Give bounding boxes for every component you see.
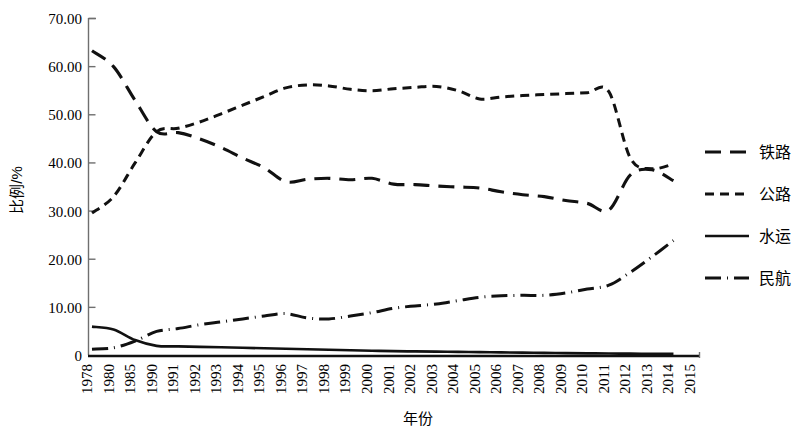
x-tick-label: 1990 — [144, 364, 160, 394]
legend-label-铁路: 铁路 — [759, 144, 791, 161]
x-tick-label: 2009 — [553, 364, 569, 394]
x-tick-label: 2015 — [682, 364, 698, 394]
x-tick-label: 2003 — [424, 364, 440, 394]
y-axis-tick-marks — [89, 19, 96, 308]
x-axis-title: 年份 — [403, 410, 433, 427]
series-line-水运 — [92, 327, 673, 354]
x-tick-label: 2005 — [467, 364, 483, 394]
x-tick-label: 1999 — [337, 364, 353, 394]
x-tick-label: 1991 — [165, 364, 181, 394]
y-tick-label: 60.00 — [48, 59, 82, 75]
x-tick-label: 1995 — [251, 364, 267, 394]
series-line-民航 — [92, 240, 673, 349]
transport-share-chart: 010.0020.0030.0040.0050.0060.0070.00 比例/… — [0, 0, 793, 433]
x-tick-label: 1994 — [230, 364, 246, 395]
y-tick-label: 50.00 — [48, 107, 82, 123]
x-tick-label: 2001 — [381, 364, 397, 394]
x-tick-label: 1992 — [187, 364, 203, 394]
x-tick-label: 2014 — [660, 364, 676, 395]
x-tick-label: 2013 — [639, 364, 655, 394]
series-group — [92, 51, 673, 354]
x-axis-tick-labels: 1978198019851990199119921993199419951996… — [79, 364, 698, 395]
x-tick-label: 2004 — [445, 364, 461, 395]
y-axis-title: 比例/% — [8, 166, 25, 214]
y-tick-label: 40.00 — [48, 155, 82, 171]
legend-label-水运: 水运 — [759, 228, 791, 245]
x-tick-label: 2011 — [596, 364, 612, 393]
x-tick-label: 2008 — [531, 364, 547, 394]
y-tick-label: 20.00 — [48, 252, 82, 268]
y-tick-label: 30.00 — [48, 204, 82, 220]
y-tick-label: 70.00 — [48, 11, 82, 27]
x-tick-label: 2012 — [617, 364, 633, 394]
x-tick-label: 2010 — [574, 364, 590, 394]
x-tick-label: 1985 — [122, 364, 138, 394]
x-tick-label: 2000 — [359, 364, 375, 394]
chart-canvas: 010.0020.0030.0040.0050.0060.0070.00 比例/… — [0, 0, 793, 433]
y-axis-tick-labels: 010.0020.0030.0040.0050.0060.0070.00 — [48, 11, 82, 364]
x-tick-label: 1978 — [79, 364, 95, 394]
x-tick-label: 1998 — [316, 364, 332, 394]
x-tick-label: 2007 — [510, 364, 526, 395]
y-tick-label: 0 — [75, 348, 83, 364]
x-tick-label: 2002 — [402, 364, 418, 394]
series-line-公路 — [92, 85, 673, 213]
x-tick-label: 1993 — [208, 364, 224, 394]
x-tick-label: 2006 — [488, 364, 504, 395]
series-line-铁路 — [92, 51, 673, 212]
x-tick-label: 1996 — [273, 364, 289, 395]
chart-legend: 铁路公路水运民航 — [705, 144, 791, 287]
legend-label-民航: 民航 — [759, 270, 791, 287]
y-tick-label: 10.00 — [48, 300, 82, 316]
legend-label-公路: 公路 — [759, 186, 791, 203]
x-tick-label: 1980 — [101, 364, 117, 394]
x-tick-label: 1997 — [294, 364, 310, 395]
